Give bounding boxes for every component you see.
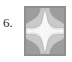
star-cross-icon-tile: [24, 6, 66, 56]
figure-row: 6.: [0, 0, 72, 62]
figure-number-label: 6.: [3, 16, 13, 29]
four-pointed-star-cross-icon: [25, 7, 65, 55]
